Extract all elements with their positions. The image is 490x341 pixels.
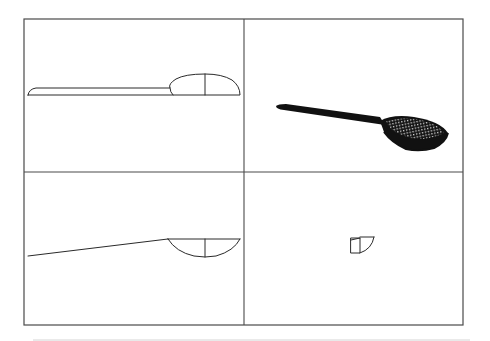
- drawing-svg: [0, 0, 490, 341]
- front-elevation-view: [28, 74, 240, 95]
- isometric-view: [276, 104, 448, 150]
- side-elevation-view: [351, 237, 374, 253]
- cad-drawing-canvas: [0, 0, 490, 341]
- top-plan-view: [28, 239, 240, 257]
